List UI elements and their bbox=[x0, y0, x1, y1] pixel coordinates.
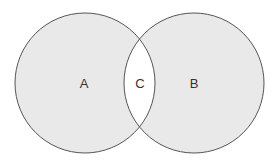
set-a-label: A bbox=[80, 76, 89, 91]
intersection-label: C bbox=[135, 76, 144, 91]
set-b-label: B bbox=[190, 76, 199, 91]
venn-diagram: A C B bbox=[0, 0, 275, 162]
